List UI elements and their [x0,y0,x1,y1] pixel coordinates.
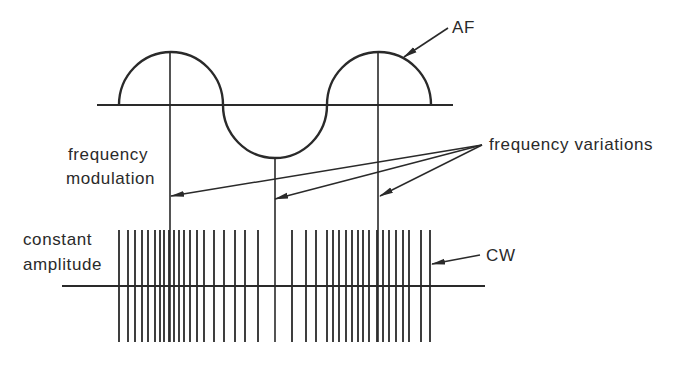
cw-label: CW [486,244,516,268]
af-waveform [97,52,453,230]
af-arrow [404,28,448,57]
annotation-arrows [171,28,482,264]
af-label: AF [452,16,475,40]
frequency-variations-label: frequency variations [489,133,653,157]
frequency-modulation-label-line1: frequency [68,143,148,167]
frequency-variation-arrow [171,145,482,196]
cw-carrier-lines [62,230,485,342]
constant-amplitude-label-line2: amplitude [23,253,102,277]
cw-arrow [432,255,480,264]
constant-amplitude-label-line1: constant [23,228,92,252]
frequency-modulation-label-line2: modulation [66,167,155,191]
